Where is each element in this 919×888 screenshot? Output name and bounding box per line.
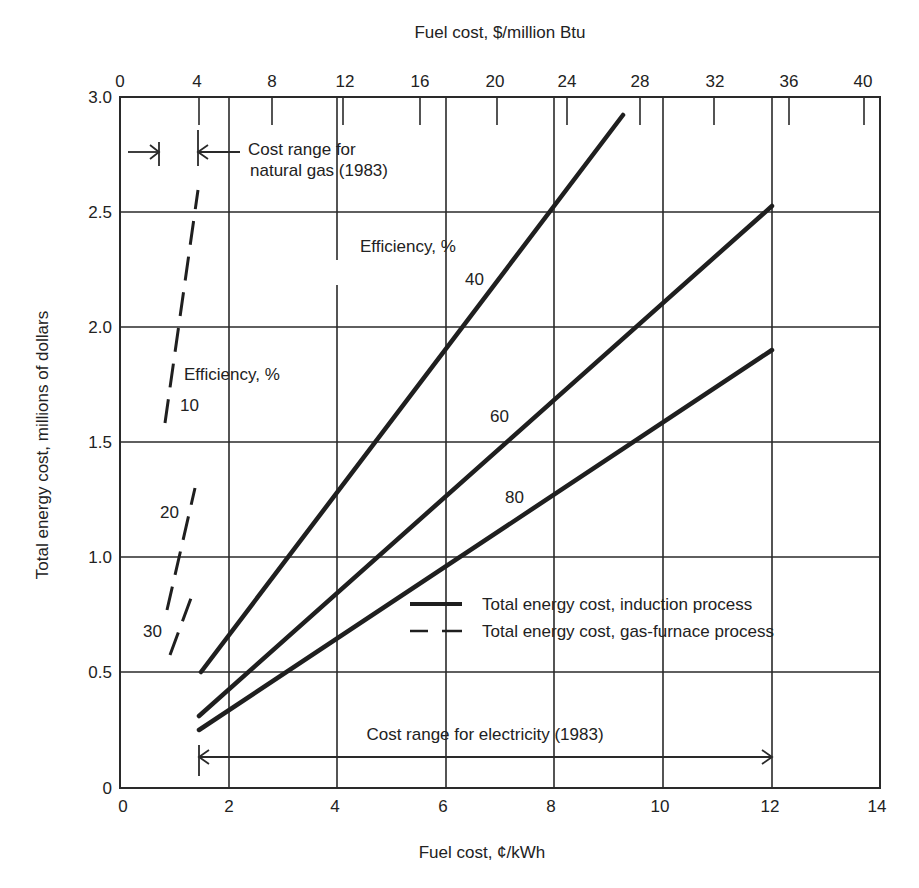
legend: Total energy cost, induction process Tot… — [410, 595, 774, 641]
svg-text:2.0: 2.0 — [88, 318, 112, 337]
svg-text:3.0: 3.0 — [88, 88, 112, 107]
svg-text:4: 4 — [330, 797, 339, 816]
svg-text:0: 0 — [118, 797, 127, 816]
label-eff-80: 80 — [505, 488, 524, 507]
svg-text:6: 6 — [438, 797, 447, 816]
svg-text:1.0: 1.0 — [88, 548, 112, 567]
label-eff-60: 60 — [490, 407, 509, 426]
chart-canvas: Fuel cost, $/million Btu 0 4 8 12 16 20 … — [0, 0, 919, 888]
svg-text:0: 0 — [115, 72, 124, 91]
svg-text:12: 12 — [761, 797, 780, 816]
svg-text:20: 20 — [486, 72, 505, 91]
x-tick-labels: 0 2 4 6 8 10 12 14 — [118, 797, 886, 816]
svg-text:16: 16 — [411, 72, 430, 91]
svg-text:8: 8 — [546, 797, 555, 816]
gas-range-label-1: Cost range for — [248, 140, 356, 159]
label-eff-10: 10 — [180, 396, 199, 415]
svg-text:4: 4 — [192, 72, 201, 91]
gas-range-marker — [128, 130, 240, 166]
y-tick-labels: 0 0.5 1.0 1.5 2.0 2.5 3.0 — [88, 88, 112, 798]
x2-tick-labels: 0 4 8 12 16 20 24 28 32 36 40 — [115, 72, 872, 91]
line-induction-80 — [199, 350, 772, 730]
line-gas-10 — [165, 190, 198, 423]
svg-text:8: 8 — [267, 72, 276, 91]
gas-range-label-2: natural gas (1983) — [250, 161, 388, 180]
label-eff-40: 40 — [465, 270, 484, 289]
y-axis-title: Total energy cost, millions of dollars — [33, 311, 52, 579]
label-eff-30: 30 — [143, 622, 162, 641]
svg-text:28: 28 — [631, 72, 650, 91]
svg-text:40: 40 — [854, 72, 873, 91]
x-axis-title: Fuel cost, ¢/kWh — [419, 843, 546, 862]
svg-text:14: 14 — [868, 797, 887, 816]
svg-text:1.5: 1.5 — [88, 433, 112, 452]
x2-ticks — [199, 97, 864, 125]
svg-text:0.5: 0.5 — [88, 663, 112, 682]
induction-efficiency-title: Efficiency, % — [360, 237, 456, 256]
label-eff-20: 20 — [160, 503, 179, 522]
legend-dash-label: Total energy cost, gas-furnace process — [482, 622, 774, 641]
svg-text:32: 32 — [706, 72, 725, 91]
x2-axis-title: Fuel cost, $/million Btu — [414, 23, 585, 42]
svg-text:2.5: 2.5 — [88, 203, 112, 222]
svg-text:10: 10 — [651, 797, 670, 816]
svg-text:12: 12 — [336, 72, 355, 91]
electricity-range-marker — [199, 745, 772, 776]
svg-text:0: 0 — [103, 779, 112, 798]
svg-text:24: 24 — [558, 72, 577, 91]
svg-text:36: 36 — [780, 72, 799, 91]
electricity-range-label: Cost range for electricity (1983) — [366, 725, 603, 744]
line-gas-30 — [170, 590, 194, 655]
svg-text:2: 2 — [224, 797, 233, 816]
legend-solid-label: Total energy cost, induction process — [482, 595, 752, 614]
gas-efficiency-title: Efficiency, % — [184, 365, 280, 384]
